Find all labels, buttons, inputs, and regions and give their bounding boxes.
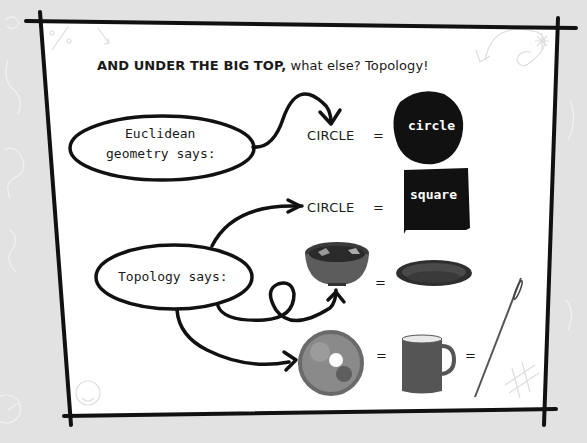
euclidean-equals: = bbox=[373, 128, 384, 143]
square-label: square bbox=[410, 187, 457, 202]
circle-label: circle bbox=[408, 118, 455, 133]
euclidean-bubble-line2: geometry says: bbox=[106, 146, 216, 161]
heading-bold: AND UNDER THE BIG TOP, bbox=[97, 58, 286, 73]
topology-row1-equals: = bbox=[373, 200, 384, 215]
topology-row1-lhs: CIRCLE bbox=[307, 200, 355, 215]
donut-image bbox=[300, 332, 362, 394]
euclidean-bubble-line1: Euclidean bbox=[125, 126, 195, 141]
heading-rest: what else? Topology! bbox=[286, 58, 428, 73]
topology-row2-equals: = bbox=[375, 275, 386, 290]
topology-row3-equals1: = bbox=[376, 348, 387, 363]
topology-bubble-text: Topology says: bbox=[118, 269, 228, 284]
page-heading: AND UNDER THE BIG TOP, what else? Topolo… bbox=[97, 58, 429, 73]
plate-image bbox=[396, 260, 472, 286]
topology-illustration: AND UNDER THE BIG TOP, what else? Topolo… bbox=[0, 0, 587, 443]
euclidean-lhs: CIRCLE bbox=[307, 128, 355, 143]
topology-row3-equals2: = bbox=[465, 348, 476, 363]
